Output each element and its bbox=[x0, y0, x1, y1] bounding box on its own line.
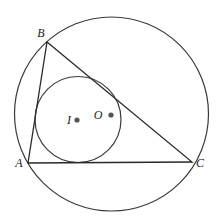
center-label-o: O bbox=[94, 109, 103, 121]
center-label-i: I bbox=[67, 114, 71, 126]
circumcenter-point-o bbox=[108, 112, 113, 117]
triangle-abc bbox=[28, 42, 192, 163]
vertex-label-b: B bbox=[37, 27, 44, 39]
vertex-label-a: A bbox=[15, 157, 22, 169]
geometry-diagram: A B C I O bbox=[0, 0, 217, 221]
vertex-label-c: C bbox=[196, 157, 204, 169]
diagram-svg bbox=[0, 0, 217, 221]
incenter-point-i bbox=[74, 117, 79, 122]
